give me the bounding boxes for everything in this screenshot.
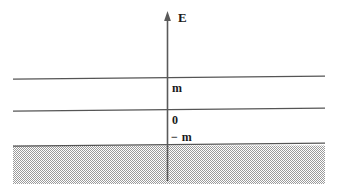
energy-axis-arrowhead	[164, 11, 171, 21]
level-line-zero	[13, 108, 325, 111]
energy-spectrum-figure: E m 0 − m	[0, 0, 338, 191]
level-label-zero: 0	[172, 114, 178, 126]
level-label-positive-m: m	[172, 82, 182, 94]
figure-canvas	[0, 0, 338, 191]
filled-negative-energy-sea-fill	[13, 146, 325, 185]
energy-axis-label: E	[178, 11, 187, 24]
level-label-negative-m: − m	[171, 131, 192, 143]
level-line-positive-m	[13, 76, 325, 79]
